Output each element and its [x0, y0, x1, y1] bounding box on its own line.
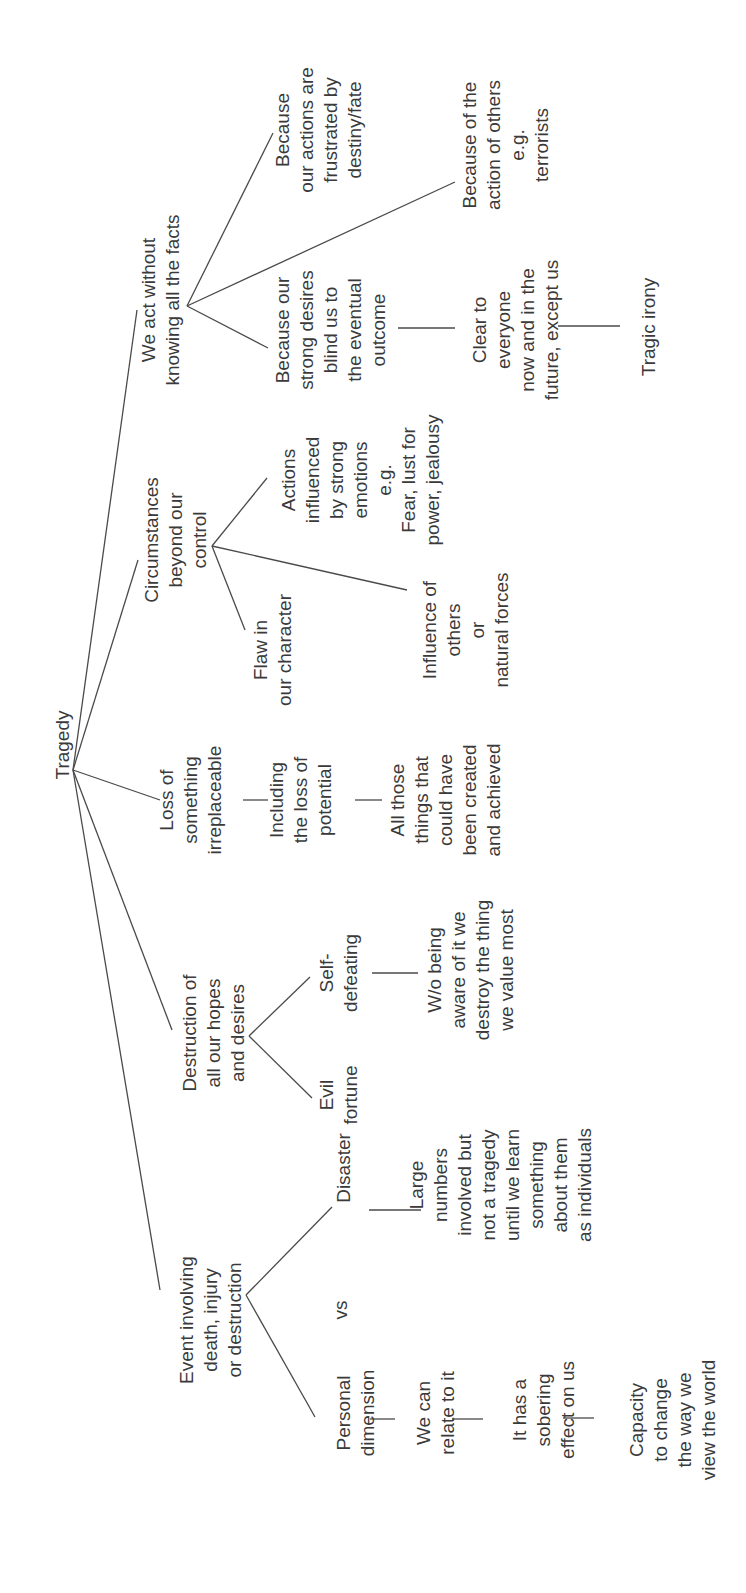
node-label-line: e.g.: [374, 464, 395, 496]
node-label-line: influenced: [302, 437, 323, 524]
node-label-line: now and in the: [517, 268, 538, 392]
node-label-line: the way we: [674, 1372, 695, 1467]
node-label-line: destroy the thing: [472, 900, 493, 1040]
node-label-line: Disaster: [333, 1132, 354, 1202]
node-label-line: Fear, lust for: [398, 427, 419, 533]
node-label-line: terrorists: [531, 108, 552, 182]
node-label-line: Evil: [316, 1080, 337, 1111]
node-label-line: view the world: [698, 1360, 719, 1480]
node-label-line: blind us to: [320, 287, 341, 374]
node-vs: vs: [330, 1301, 351, 1320]
node-label-line: e.g.: [507, 129, 528, 161]
node-label-line: all our hopes: [203, 979, 224, 1088]
node-label-line: aware of it we: [448, 911, 469, 1028]
node-label-line: irreplaceable: [204, 746, 225, 855]
node-label-line: and achieved: [483, 743, 504, 856]
node-label-line: Self-: [316, 953, 337, 992]
node-tragic-irony: Tragic irony: [638, 277, 659, 376]
node-label-line: All those: [387, 764, 408, 837]
node-label-line: strong desires: [296, 270, 317, 389]
node-label-line: fortune: [340, 1065, 361, 1124]
node-label-line: not a tragedy: [478, 1129, 499, 1240]
node-label-line: outcome: [368, 294, 389, 367]
node-label-line: or: [467, 621, 488, 639]
node-label-line: as individuals: [574, 1128, 595, 1242]
node-root: Tragedy: [52, 710, 73, 779]
node-label-line: beyond our: [165, 492, 186, 588]
node-label-line: Tragic irony: [638, 277, 659, 376]
node-label-line: Including: [266, 762, 287, 838]
node-label-line: Large: [406, 1161, 427, 1210]
node-label-line: control: [189, 511, 210, 568]
node-label-line: we value most: [496, 909, 517, 1032]
node-label-line: Because our: [272, 276, 293, 383]
node-label-line: effect on us: [557, 1361, 578, 1459]
node-label-line: or destruction: [224, 1262, 245, 1377]
node-label-line: Circumstances: [141, 477, 162, 603]
node-label-line: It has a: [509, 1378, 530, 1441]
node-label-line: Influence of: [419, 580, 440, 679]
background: [0, 0, 746, 1593]
node-label-line: about them: [550, 1137, 571, 1232]
node-label-line: Event involving: [176, 1256, 197, 1384]
node-label-line: the loss of: [290, 756, 311, 843]
node-label-line: something: [526, 1141, 547, 1229]
node-label-line: and desires: [227, 984, 248, 1082]
node-label-line: could have: [435, 754, 456, 846]
node-label-line: by strong: [326, 441, 347, 519]
node-label-line: death, injury: [200, 1268, 221, 1372]
node-label-line: emotions: [350, 441, 371, 518]
node-label-line: sobering: [533, 1374, 554, 1447]
node-label-line: things that: [411, 755, 432, 843]
node-label-line: relate to it: [437, 1371, 458, 1455]
tragedy-mind-map: TragedyWe act withoutknowing all the fac…: [0, 0, 746, 1593]
node-label-line: Loss of: [156, 769, 177, 831]
node-label-line: numbers: [430, 1148, 451, 1222]
node-label-line: Actions: [278, 449, 299, 511]
node-label-line: Because: [272, 93, 293, 167]
node-label-line: Clear to: [469, 297, 490, 364]
node-label-line: involved but: [454, 1134, 475, 1236]
node-label-line: vs: [330, 1301, 351, 1320]
node-label-line: frustrated by: [320, 77, 341, 183]
node-label-line: Personal: [333, 1376, 354, 1451]
node-label-line: Because of the: [459, 82, 480, 209]
node-including-loss: Includingthe loss ofpotential: [266, 756, 335, 843]
node-label-line: others: [443, 604, 464, 657]
node-label-line: power, jealousy: [422, 414, 443, 545]
node-label-line: We can: [413, 1381, 434, 1445]
node-label-line: Tragedy: [52, 710, 73, 779]
node-event: Event involvingdeath, injuryor destructi…: [176, 1256, 245, 1384]
node-label-line: Flaw in: [250, 620, 271, 680]
node-label-line: knowing all the facts: [162, 214, 183, 385]
node-destruction: Destruction ofall our hopesand desires: [179, 974, 248, 1092]
node-label-line: been created: [459, 745, 480, 856]
node-label-line: Destruction of: [179, 974, 200, 1092]
node-label-line: dimension: [357, 1370, 378, 1457]
node-disaster: Disaster: [333, 1132, 354, 1202]
node-label-line: destiny/fate: [344, 81, 365, 178]
node-label-line: natural forces: [491, 572, 512, 687]
node-label-line: Capacity: [626, 1383, 647, 1457]
node-label-line: We act without: [138, 237, 159, 362]
node-label-line: everyone: [493, 291, 514, 369]
node-label-line: our character: [274, 593, 295, 706]
node-label-line: to change: [650, 1378, 671, 1461]
node-label-line: the eventual: [344, 278, 365, 382]
node-label-line: defeating: [340, 934, 361, 1012]
node-label-line: W/o being: [424, 927, 445, 1013]
node-label-line: our actions are: [296, 67, 317, 193]
node-label-line: until we learn: [502, 1129, 523, 1241]
node-label-line: future, except us: [541, 260, 562, 400]
node-label-line: potential: [314, 764, 335, 836]
node-label-line: something: [180, 756, 201, 844]
node-label-line: action of others: [483, 80, 504, 210]
